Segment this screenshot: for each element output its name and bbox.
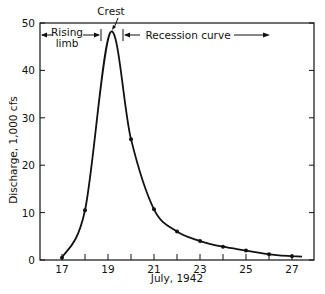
hydrograph-chart: 01020304050 171921232527 July, 1942 Disc… [0, 0, 325, 294]
data-point [83, 208, 87, 212]
y-tick-label: 0 [28, 254, 35, 266]
data-point [244, 249, 248, 253]
x-axis-label: July, 1942 [150, 272, 203, 284]
y-tick-label: 50 [22, 17, 35, 29]
data-point [129, 137, 133, 141]
data-point [60, 256, 64, 260]
rising-limb-arrowhead-right [94, 33, 100, 38]
hydrograph-curve [62, 31, 302, 257]
data-point [221, 245, 225, 249]
rising-limb-label-line2: limb [56, 37, 79, 49]
y-axis-ticks: 01020304050 [22, 17, 314, 266]
y-tick-label: 10 [22, 207, 35, 219]
rising-limb-arrowhead-left [41, 33, 47, 38]
x-tick-label: 19 [101, 263, 114, 275]
x-tick-label: 25 [239, 263, 252, 275]
y-tick-label: 30 [22, 112, 35, 124]
data-point [152, 207, 156, 211]
x-tick-label: 17 [55, 263, 68, 275]
x-tick-label: 27 [285, 263, 298, 275]
data-points [60, 137, 294, 260]
data-point [175, 230, 179, 234]
data-point [290, 254, 294, 258]
y-axis-label: Discharge, 1,000 cfs [7, 96, 19, 204]
crest-label: Crest [97, 5, 124, 17]
recession-curve-label: Recession curve [145, 29, 230, 41]
recession-arrowhead-left [124, 33, 130, 38]
recession-arrowhead-right [263, 33, 270, 38]
data-point [198, 239, 202, 243]
y-tick-label: 40 [22, 64, 35, 76]
y-tick-label: 20 [22, 159, 35, 171]
data-point [267, 252, 271, 256]
